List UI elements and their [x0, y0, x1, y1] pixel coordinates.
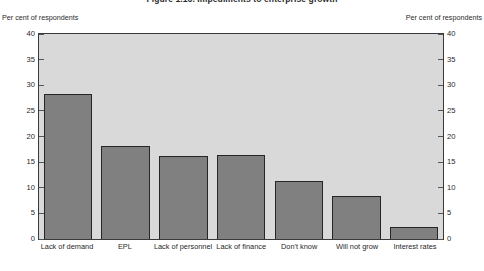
figure-title: Figure 1.16. Impediments to enterprise g… [0, 0, 484, 6]
y-tick-label-left-10: 10 [27, 184, 35, 192]
x-axis-category-labels: Lack of demandEPLLack of personnelLack o… [38, 242, 444, 251]
y-tick-label-left-25: 25 [27, 107, 35, 115]
bar-slot [97, 34, 155, 239]
category-slot: Lack of finance [212, 242, 270, 251]
x-axis-label-lack-of-finance: Lack of finance [212, 242, 270, 251]
y-tick-label-right-20: 20 [447, 133, 455, 141]
category-slot: Lack of personnel [154, 242, 212, 251]
category-slot: Interest rates [386, 242, 444, 251]
y-tick-label-left-35: 35 [27, 56, 35, 64]
x-axis-label-don-t-know: Don't know [270, 242, 328, 251]
x-axis-label-lack-of-personnel: Lack of personnel [154, 242, 212, 251]
bar-slot [328, 34, 386, 239]
y-tick-label-left-30: 30 [27, 81, 35, 89]
y-tick-label-right-10: 10 [447, 184, 455, 192]
bar-chart: 0510152025303540 0510152025303540 [38, 33, 444, 240]
y-tick-label-right-30: 30 [447, 81, 455, 89]
bar-interest-rates [390, 227, 438, 239]
category-slot: Don't know [270, 242, 328, 251]
y-tick-label-left-20: 20 [27, 133, 35, 141]
y-tick-label-right-40: 40 [447, 30, 455, 38]
y-tick-label-left-40: 40 [27, 30, 35, 38]
y-tick-label-right-15: 15 [447, 158, 455, 166]
x-axis-label-will-not-grow: Will not grow [328, 242, 386, 251]
y-tick-label-right-0: 0 [447, 235, 451, 243]
category-slot: Will not grow [328, 242, 386, 251]
y-tick-label-left-15: 15 [27, 158, 35, 166]
bar-will-not-grow [332, 196, 380, 239]
bar-lack-of-personnel [159, 156, 207, 239]
category-slot: EPL [96, 242, 154, 251]
bars-layer [39, 34, 443, 239]
bar-slot [39, 34, 97, 239]
y-tick-label-left-5: 5 [31, 209, 35, 217]
x-axis-label-epl: EPL [96, 242, 154, 251]
right-axis-caption: Per cent of respondents [406, 13, 482, 22]
x-axis-label-interest-rates: Interest rates [386, 242, 444, 251]
bar-don-t-know [275, 181, 323, 239]
x-axis-label-lack-of-demand: Lack of demand [38, 242, 96, 251]
y-tick-label-right-5: 5 [447, 209, 451, 217]
bar-lack-of-finance [217, 155, 265, 239]
y-tick-label-right-25: 25 [447, 107, 455, 115]
bar-slot [212, 34, 270, 239]
bar-slot [154, 34, 212, 239]
bar-slot [270, 34, 328, 239]
bar-slot [385, 34, 443, 239]
bar-epl [101, 146, 149, 239]
category-slot: Lack of demand [38, 242, 96, 251]
bar-lack-of-demand [44, 94, 92, 239]
y-tick-label-left-0: 0 [31, 235, 35, 243]
left-axis-caption: Per cent of respondents [2, 13, 78, 22]
y-tick-label-right-35: 35 [447, 56, 455, 64]
